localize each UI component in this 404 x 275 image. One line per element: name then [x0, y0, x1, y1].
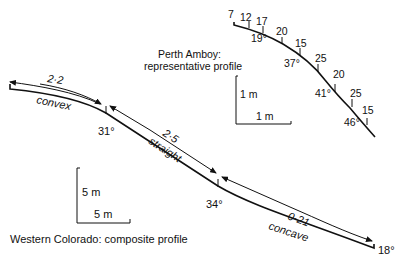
wc-angle-34: 34°	[206, 198, 223, 210]
wc-title: Western Colorado: composite profile	[10, 233, 188, 245]
pa-seg-7: 20	[333, 68, 345, 80]
pa-scale-vertical: 1 m	[240, 88, 258, 100]
wc-label-convex: convex	[36, 93, 73, 112]
pa-seg-6: 25	[315, 52, 327, 64]
pa-seg-8: 25	[350, 87, 362, 99]
pa-seg-4: 20	[276, 25, 288, 37]
pa-angle-41: 41°	[315, 87, 331, 99]
wc-scale-horizontal: 5 m	[94, 208, 112, 220]
slope-profiles-diagram: 7 12 17 20 15 25 20 25 15 19° 37° 41° 46…	[0, 0, 404, 275]
pa-seg-1: 7	[228, 8, 234, 20]
pa-seg-9: 15	[362, 104, 374, 116]
wc-scale-vertical: 5 m	[82, 186, 100, 198]
wc-concave-arrow-left	[222, 177, 290, 207]
perth-amboy-profile: 7 12 17 20 15 25 20 25 15 19° 37° 41° 46…	[144, 8, 375, 137]
pa-seg-3: 17	[256, 15, 268, 27]
western-colorado-profile: 2·2 2·5 0·21 convex straight concave 31°…	[10, 72, 395, 256]
wc-straight-arrow-left	[110, 106, 150, 130]
pa-title-line2: representative profile	[144, 60, 242, 72]
pa-angle-37: 37°	[284, 57, 300, 69]
pa-seg-2: 12	[240, 11, 252, 23]
pa-seg-5: 15	[295, 37, 307, 49]
pa-title-line1: Perth Amboy:	[158, 48, 221, 60]
wc-angle-18: 18°	[378, 244, 395, 256]
pa-angle-19: 19°	[251, 32, 267, 44]
pa-scale-horizontal: 1 m	[256, 110, 274, 122]
wc-ratio-convex: 2·2	[46, 72, 64, 86]
wc-angle-31: 31°	[98, 125, 115, 137]
pa-angle-46: 46°	[344, 116, 360, 128]
